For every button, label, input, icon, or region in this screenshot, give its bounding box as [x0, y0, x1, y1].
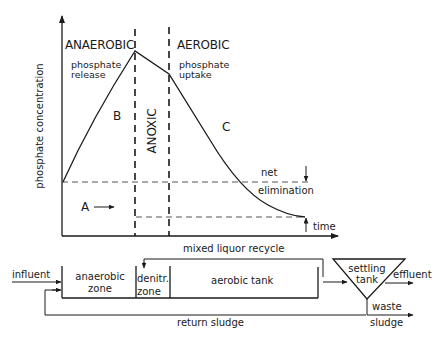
anaerobic-zone-line-1: anaerobic — [66, 271, 134, 283]
release-line-2: release — [71, 70, 121, 80]
phosphate-release-label: phosphate release — [71, 60, 121, 80]
aerobic-tank-label: aerobic tank — [211, 276, 273, 286]
waste-label: waste — [372, 302, 402, 312]
denitr-zone-label: denitr. zone — [137, 272, 169, 298]
denitr-zone-line-1: denitr. — [137, 272, 169, 285]
uptake-line-2: uptake — [179, 70, 229, 80]
return-sludge-label: return sludge — [177, 318, 244, 328]
net-label: net — [261, 168, 277, 178]
effluent-label: effluent — [393, 270, 432, 280]
anaerobic-zone-label: anaerobic zone — [66, 271, 134, 295]
settling-tank-label: settling tank — [344, 263, 390, 285]
settling-tank-line-1: settling — [344, 263, 390, 274]
y-axis-label: phosphate concentration — [35, 61, 45, 191]
aerobic-phase-label: AEROBIC — [177, 39, 229, 51]
phosphate-uptake-label: phosphate uptake — [179, 60, 229, 80]
denitr-zone-line-2: zone — [137, 285, 169, 298]
point-c-label: C — [222, 121, 230, 133]
settling-tank-line-2: tank — [344, 274, 390, 285]
influent-label: influent — [12, 270, 50, 280]
elimination-label: elimination — [258, 186, 314, 196]
x-axis-label: time — [313, 222, 336, 232]
point-a-label: A — [81, 201, 89, 213]
anaerobic-phase-label: ANAEROBIC — [65, 39, 134, 51]
anaerobic-zone-line-2: zone — [66, 283, 134, 295]
point-b-label: B — [113, 110, 121, 122]
sludge-label: sludge — [370, 318, 403, 328]
anoxic-phase-label: ANOXIC — [146, 101, 158, 161]
mixed-liquor-recycle-label: mixed liquor recycle — [183, 244, 284, 254]
